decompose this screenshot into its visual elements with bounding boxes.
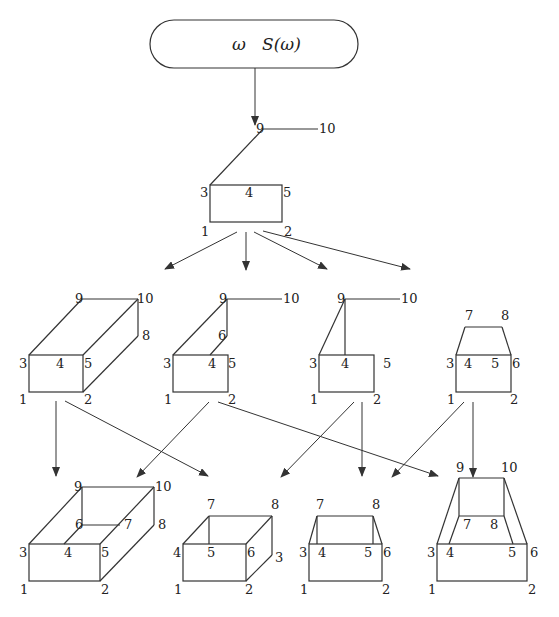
node-label: 9 <box>74 479 82 494</box>
node-label: 8 <box>372 497 380 512</box>
node-label: 1 <box>20 582 28 597</box>
node-label: 2 <box>84 392 92 407</box>
node-label: 1 <box>310 392 318 407</box>
node-label: 4 <box>464 356 472 371</box>
arrows-level1-to-level2 <box>56 401 473 477</box>
level2-shape-g: 7 8 3 4 5 6 1 2 <box>299 497 391 597</box>
node-label: 4 <box>245 185 253 200</box>
node-label: 10 <box>283 291 300 306</box>
node-label: 6 <box>218 328 226 343</box>
node-label: 3 <box>19 545 27 560</box>
node-label: 3 <box>163 356 171 371</box>
node-label: 2 <box>101 582 109 597</box>
node-label: 1 <box>300 582 308 597</box>
node-label: 5 <box>364 545 372 560</box>
level2-shape-h: 9 10 7 8 3 4 5 6 1 2 <box>427 460 538 597</box>
node-label: 10 <box>319 121 336 136</box>
node-label: 5 <box>491 356 499 371</box>
omega-label: ω <box>232 34 246 54</box>
node-label: 6 <box>75 517 83 532</box>
node-label: 5 <box>383 356 391 371</box>
node-label: 4 <box>56 356 64 371</box>
node-label: 5 <box>283 185 291 200</box>
node-label: 7 <box>124 517 132 532</box>
level2-shape-f: 7 8 4 5 6 3 1 2 <box>173 497 283 597</box>
node-label: 8 <box>158 517 166 532</box>
node-label: 2 <box>528 582 536 597</box>
node-label: 1 <box>164 392 172 407</box>
node-label: 3 <box>446 356 454 371</box>
diagram-canvas: ω S(ω) 9 10 3 4 5 1 2 9 10 8 3 4 5 1 2 <box>0 0 559 617</box>
node-label: 3 <box>200 185 208 200</box>
node-label: 2 <box>373 392 381 407</box>
level1-shape-a: 9 10 8 3 4 5 1 2 <box>19 291 154 407</box>
level1-shape-b: 9 10 6 3 4 5 1 2 <box>163 291 300 407</box>
level1-shape-d: 7 8 3 4 5 6 1 2 <box>446 308 520 407</box>
node-label: 1 <box>174 582 182 597</box>
node-label: 7 <box>463 517 471 532</box>
node-label: 1 <box>19 392 27 407</box>
node-label: 3 <box>299 545 307 560</box>
level1-shape-c: 9 10 3 4 5 1 2 <box>309 291 418 407</box>
node-label: 9 <box>256 121 264 136</box>
node-label: 1 <box>447 392 455 407</box>
node-label: 10 <box>501 460 518 475</box>
node-label: 6 <box>383 545 391 560</box>
node-label: 5 <box>84 356 92 371</box>
node-label: 2 <box>510 392 518 407</box>
node-label: 8 <box>501 308 509 323</box>
node-label: 7 <box>465 308 473 323</box>
node-label: 5 <box>228 356 236 371</box>
node-label: 9 <box>456 460 464 475</box>
node-label: 4 <box>341 356 349 371</box>
node-label: 7 <box>316 497 324 512</box>
node-label: 3 <box>19 356 27 371</box>
seed-shape: 9 10 3 4 5 1 2 <box>200 121 336 239</box>
node-label: 2 <box>245 582 253 597</box>
node-label: 7 <box>207 497 215 512</box>
node-label: 6 <box>247 545 255 560</box>
node-label: 4 <box>208 356 216 371</box>
node-label: 5 <box>207 545 215 560</box>
node-label: 2 <box>382 582 390 597</box>
node-label: 3 <box>309 356 317 371</box>
node-label: 8 <box>490 517 498 532</box>
node-label: 6 <box>512 356 520 371</box>
s-omega-label: S(ω) <box>262 34 301 54</box>
node-label: 9 <box>219 291 227 306</box>
node-label: 10 <box>401 291 418 306</box>
node-label: 10 <box>155 479 172 494</box>
node-label: 4 <box>64 545 72 560</box>
node-label: 8 <box>142 328 150 343</box>
node-label: 3 <box>275 550 283 565</box>
node-label: 4 <box>318 545 326 560</box>
node-label: 4 <box>173 545 181 560</box>
node-label: 1 <box>201 224 209 239</box>
node-label: 1 <box>428 582 436 597</box>
root-node: ω S(ω) <box>150 20 358 68</box>
node-label: 9 <box>337 291 345 306</box>
node-label: 6 <box>530 545 538 560</box>
node-label: 5 <box>508 545 516 560</box>
node-label: 4 <box>446 545 454 560</box>
node-label: 3 <box>427 545 435 560</box>
node-label: 5 <box>101 545 109 560</box>
node-label: 9 <box>75 291 83 306</box>
node-label: 2 <box>228 392 236 407</box>
level2-shape-e: 9 10 6 7 8 3 4 5 1 2 <box>19 479 172 597</box>
node-label: 8 <box>271 497 279 512</box>
node-label: 10 <box>137 291 154 306</box>
